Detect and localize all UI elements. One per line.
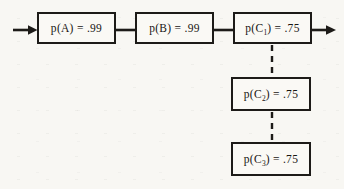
output-arrowhead-icon — [326, 25, 336, 34]
block-b-label: p(B) = .99 — [149, 22, 200, 34]
block-c3: p(C3) = .75 — [231, 142, 311, 176]
block-c1: p(C1) = .75 — [233, 12, 312, 44]
block-a-label: p(A) = .99 — [51, 22, 102, 34]
reliability-block-diagram: p(A) = .99 p(B) = .99 p(C1) = .75 p(C2) … — [0, 0, 344, 189]
block-b: p(B) = .99 — [135, 12, 214, 44]
block-c2: p(C2) = .75 — [231, 77, 311, 111]
block-a: p(A) = .99 — [37, 12, 116, 44]
block-c1-label: p(C1) = .75 — [245, 22, 299, 34]
block-c3-label: p(C3) = .75 — [244, 153, 298, 165]
block-c2-label: p(C2) = .75 — [244, 88, 298, 100]
